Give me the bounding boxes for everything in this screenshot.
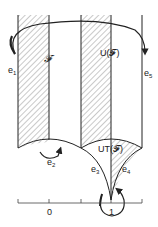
label-F: 𝓕 [44, 53, 55, 64]
label-e2: e2 [47, 157, 56, 168]
region-UF [81, 15, 111, 148]
label-e5: e5 [144, 68, 153, 79]
label-e4: e4 [122, 164, 131, 175]
label-UF: U(𝓕) [100, 48, 120, 58]
label-e1: e1 [8, 65, 17, 76]
tick-label-0: 0 [47, 207, 52, 217]
label-e3: e3 [91, 164, 100, 175]
region-F [18, 15, 49, 148]
label-UTF: UT(𝓕) [98, 144, 123, 154]
tick-label-1: 1 [109, 207, 114, 217]
diagram-canvas: 𝓕 U(𝓕) UT(𝓕) 0 1 e1 e5 e2 e3 e4 [0, 0, 158, 227]
